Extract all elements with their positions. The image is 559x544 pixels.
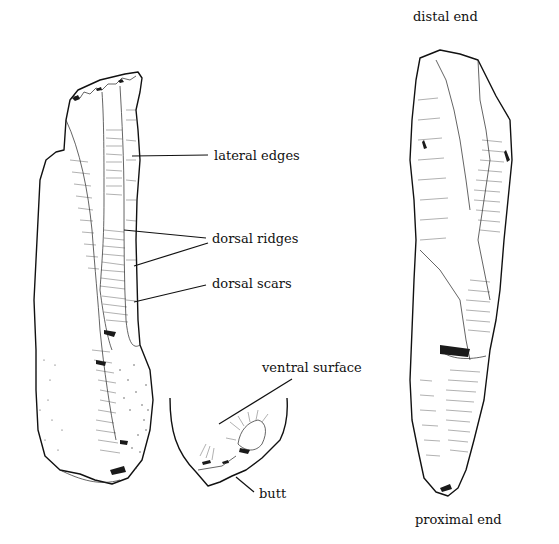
leader-lateral-edges	[132, 155, 208, 156]
leader-dorsal-scars	[134, 285, 206, 302]
label-dorsal-scars: dorsal scars	[212, 276, 292, 291]
label-dorsal-ridges: dorsal ridges	[212, 231, 298, 246]
label-ventral-surface: ventral surface	[261, 360, 362, 375]
cortex-stipple	[39, 359, 148, 468]
ventral-blade-outline	[410, 50, 512, 496]
dorsal-scar-hatching	[70, 110, 136, 453]
label-butt: butt	[259, 486, 287, 501]
butt-detail-drawing	[170, 398, 287, 486]
label-lateral-edges: lateral edges	[214, 148, 300, 163]
label-proximal-end: proximal end	[415, 512, 502, 527]
label-distal-end: distal end	[413, 9, 478, 24]
blade-figure: distal end lateral edges dorsal ridges d…	[0, 0, 559, 544]
butt-outline	[170, 398, 287, 486]
ventral-view-drawing	[410, 50, 512, 496]
dorsal-view-drawing	[34, 72, 153, 484]
dorsal-ridge-right	[100, 92, 112, 350]
dorsal-ridge-left	[66, 120, 116, 440]
dorsal-blade-outline	[34, 72, 153, 484]
leader-ventral-surface	[219, 379, 292, 424]
leader-dorsal-ridges-2	[134, 243, 208, 266]
leader-butt	[236, 477, 254, 492]
